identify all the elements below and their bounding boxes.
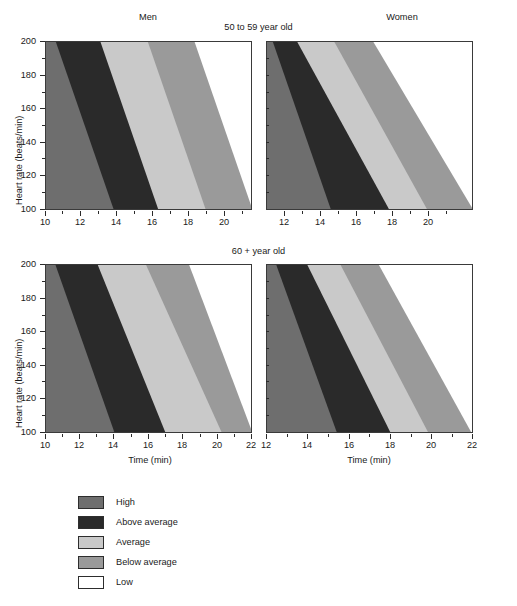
x-tick-20-men60: 20 <box>207 440 227 450</box>
panel-title-women-50: Women <box>362 12 442 22</box>
legend-label-below-average: Below average <box>116 556 177 569</box>
x-tick-18-women60: 18 <box>380 440 400 450</box>
y-tickmark-170-women60 <box>266 315 269 316</box>
x-tickmark-17-men50 <box>170 211 171 214</box>
y-tickmark-140-women50 <box>266 142 269 143</box>
x-axis-label-men60: Time (min) <box>100 455 200 465</box>
figure-root: Men 50 to 59 year old Women Heart rate (… <box>0 0 517 606</box>
legend-swatch-low <box>78 576 104 589</box>
x-tickmark-20-men50 <box>224 211 225 216</box>
x-tickmark-18-women50 <box>392 211 393 216</box>
x-tick-18-women50: 18 <box>382 217 402 227</box>
x-tick-16-men60: 16 <box>138 440 158 450</box>
y-tick-120-row2: 120 <box>14 393 36 403</box>
plot-men-60-plus[interactable] <box>45 264 252 433</box>
plot-women-60-svg <box>267 265 473 433</box>
x-tickmark-12-men50 <box>80 211 81 216</box>
x-tick-12-women50: 12 <box>274 217 294 227</box>
legend-swatch-high <box>78 496 104 509</box>
group-title-60-plus: 60 + year old <box>0 246 517 256</box>
y-tickmark-110-women60 <box>266 415 269 416</box>
plot-women-50-59[interactable] <box>266 41 473 210</box>
legend-swatch-average <box>78 536 104 549</box>
x-tickmark-20-women60 <box>431 434 432 439</box>
y-axis-label-row2: Heart rate (beats/min) <box>14 339 24 428</box>
x-tickmark-21-men60 <box>234 434 235 437</box>
x-tickmark-10-men60 <box>45 434 46 439</box>
y-tick-160-row2: 160 <box>14 326 36 336</box>
y-tick-200-row1: 200 <box>14 36 36 46</box>
y-tickmark-120-women60 <box>266 398 269 399</box>
y-tick-160-row1: 160 <box>14 103 36 113</box>
x-tickmark-19-women60 <box>411 434 412 437</box>
x-tickmark-19-men60 <box>200 434 201 437</box>
x-tickmark-20-women50 <box>428 211 429 216</box>
x-tickmark-14-women60 <box>307 434 308 439</box>
x-tickmark-14-men60 <box>113 434 114 439</box>
y-tick-140-row2: 140 <box>14 360 36 370</box>
y-tickmark-180-women60 <box>266 298 269 299</box>
legend-swatch-below-average <box>78 556 104 569</box>
x-tick-14-women50: 14 <box>310 217 330 227</box>
x-tick-16-women60: 16 <box>339 440 359 450</box>
x-tickmark-18-men60 <box>182 434 183 439</box>
y-tickmark-150-women50 <box>266 125 269 126</box>
x-tick-10-men50: 10 <box>35 217 55 227</box>
x-tickmark-19-men50 <box>206 211 207 214</box>
x-tickmark-14-men50 <box>116 211 117 216</box>
x-tickmark-22-men60 <box>251 434 252 439</box>
x-tickmark-13-women50 <box>302 211 303 214</box>
plot-men-50-59[interactable] <box>45 41 252 210</box>
group-title-50-59: 50 to 59 year old <box>0 22 517 32</box>
y-tickmark-110-women50 <box>266 192 269 193</box>
x-tick-14-women60: 14 <box>297 440 317 450</box>
x-tickmark-17-men60 <box>165 434 166 437</box>
plot-women-60-plus[interactable] <box>266 264 473 433</box>
plot-women-50-59-svg <box>267 42 473 210</box>
x-tickmark-16-women60 <box>349 434 350 439</box>
x-tickmark-17-women60 <box>369 434 370 437</box>
y-tickmark-180-women50 <box>266 75 269 76</box>
y-tickmark-130-women60 <box>266 381 269 382</box>
y-tick-120-row1: 120 <box>14 170 36 180</box>
y-axis-label-row1: Heart rate (beats/min) <box>14 116 24 205</box>
y-tickmark-190-women50 <box>266 58 269 59</box>
legend-label-average: Average <box>116 536 150 549</box>
x-tickmark-11-men50 <box>62 211 63 214</box>
y-tickmark-170-women50 <box>266 92 269 93</box>
x-tickmark-15-men60 <box>131 434 132 437</box>
y-tickmark-190-women60 <box>266 281 269 282</box>
x-tick-20-women50: 20 <box>418 217 438 227</box>
x-tickmark-13-men60 <box>96 434 97 437</box>
x-tickmark-14-women50 <box>320 211 321 216</box>
plot-men-60-svg <box>46 265 252 433</box>
x-tickmark-18-men50 <box>188 211 189 216</box>
x-tickmark-20-men60 <box>217 434 218 439</box>
x-tickmark-16-men50 <box>152 211 153 216</box>
x-tick-14-men60: 14 <box>103 440 123 450</box>
x-tickmark-16-men60 <box>148 434 149 439</box>
plot-men-50-59-svg <box>46 42 252 210</box>
x-tickmark-12-women60 <box>266 434 267 439</box>
x-tick-12-men60: 12 <box>69 440 89 450</box>
x-tick-16-women50: 16 <box>346 217 366 227</box>
y-tick-200-row2: 200 <box>14 259 36 269</box>
x-tickmark-22-women60 <box>472 434 473 439</box>
x-axis-label-women60: Time (min) <box>319 455 419 465</box>
y-tick-100-row1: 100 <box>14 204 36 214</box>
y-tickmark-120-women50 <box>266 175 269 176</box>
x-tick-12-men50: 12 <box>70 217 90 227</box>
x-tick-12-women60: 12 <box>256 440 276 450</box>
y-tickmark-130-women50 <box>266 158 269 159</box>
legend-label-low: Low <box>116 576 133 589</box>
legend-swatch-above-average <box>78 516 104 529</box>
x-tickmark-18-women60 <box>390 434 391 439</box>
x-tick-14-men50: 14 <box>106 217 126 227</box>
y-tickmark-160-women50 <box>266 108 269 109</box>
y-tickmark-160-women60 <box>266 331 269 332</box>
x-tickmark-13-women60 <box>287 434 288 437</box>
x-tick-18-men60: 18 <box>172 440 192 450</box>
x-tickmark-10-men50 <box>45 211 46 216</box>
legend-label-high: High <box>116 496 135 509</box>
panel-title-men-50: Men <box>108 12 188 22</box>
